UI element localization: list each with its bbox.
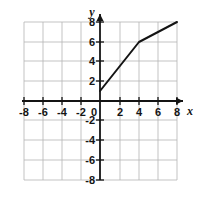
x-tick-label: 8 <box>174 106 180 118</box>
x-tick-label: -4 <box>57 106 68 118</box>
graph-svg: -8 -6 -4 -2 0 2 4 6 8 8 6 4 2 -2 -4 -6 -… <box>0 0 203 198</box>
y-tick-label: 2 <box>89 75 95 87</box>
x-tick-label: 2 <box>117 106 123 118</box>
x-tick-label: 4 <box>136 106 143 118</box>
y-tick-label: -4 <box>85 134 96 146</box>
coordinate-graph-figure: -8 -6 -4 -2 0 2 4 6 8 8 6 4 2 -2 -4 -6 -… <box>0 0 203 198</box>
y-axis <box>97 14 104 180</box>
x-tick-label: 6 <box>155 106 161 118</box>
x-axis-label: x <box>186 104 193 118</box>
y-axis-label: y <box>87 5 95 19</box>
arrow-up-icon <box>97 14 104 21</box>
x-axis <box>22 98 183 105</box>
y-tick-label: -6 <box>85 154 95 166</box>
y-tick-label: -2 <box>85 114 95 126</box>
y-tick-label: -8 <box>85 174 95 186</box>
y-tick-label: 4 <box>89 55 96 67</box>
y-tick-label: 6 <box>89 36 95 48</box>
x-tick-label: -8 <box>19 106 29 118</box>
x-tick-label: -6 <box>38 106 48 118</box>
